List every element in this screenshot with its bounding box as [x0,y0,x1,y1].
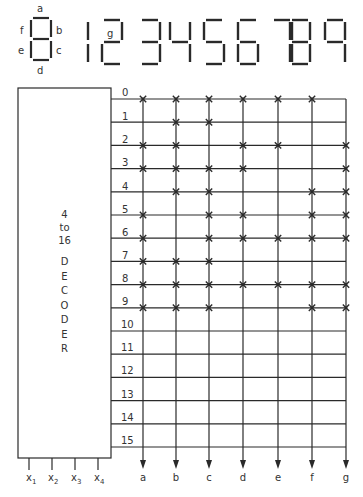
legend-label-e: e [18,46,24,56]
output-line-label-13: 13 [121,390,134,400]
decoder-letter: E [18,328,111,343]
output-col-label-d: d [237,473,249,483]
input-x4: x4 [94,473,104,487]
input-x1: x1 [26,473,36,487]
arrow-down-icon [309,460,315,469]
arrow-down-icon [173,460,179,469]
output-line-label-4: 4 [122,182,128,192]
legend-label-a: a [37,4,43,14]
arrow-down-icon [275,460,281,469]
digit-3 [142,20,160,64]
output-col-label-e: e [272,473,284,483]
decoder-letter: E [18,270,111,285]
input-sub: 2 [54,478,58,486]
digit-2 [102,20,122,64]
diode-matrix-grid [111,99,346,462]
legend-label-g: g [107,29,113,39]
decoder-letter: R [18,342,111,357]
output-line-label-8: 8 [122,274,128,284]
decoder-name: D E C O D E R [18,255,111,357]
digit-5 [204,20,224,64]
output-line-label-10: 10 [121,320,134,330]
output-line-label-2: 2 [122,135,128,145]
input-x2: x2 [48,473,58,487]
decoder-letter: C [18,284,111,299]
arrow-down-icon [140,460,146,469]
output-col-label-b: b [170,473,182,483]
output-line-label-9: 9 [122,297,128,307]
seven-segment-legend [31,18,51,60]
decoder-letter: D [18,255,111,270]
decoder-letter: D [18,313,111,328]
matrix-connections [140,96,349,311]
digit-4 [170,22,190,62]
decoder-title: 4 to 16 [18,208,111,247]
output-line-label-3: 3 [122,158,128,168]
decoder-title-line-2: to [18,221,111,234]
legend-label-d: d [37,66,43,76]
legend-label-f: f [20,26,24,36]
legend-label-b: b [56,26,62,36]
input-sub: 1 [32,478,36,486]
output-col-label-g: g [340,473,352,483]
arrow-down-icon [206,460,212,469]
legend-label-c: c [56,46,62,56]
output-line-label-12: 12 [121,366,134,376]
output-col-label-c: c [203,473,215,483]
input-sub: 3 [77,478,81,486]
output-line-label-11: 11 [121,343,134,353]
digit-6 [238,20,258,64]
input-sub: 4 [100,478,104,486]
arrow-down-icon [343,460,349,469]
output-col-label-f: f [306,473,318,483]
digit-display-row [88,20,345,64]
digit-9 [325,20,345,62]
output-line-label-1: 1 [122,112,128,122]
rom-decoder-diagram [0,0,363,497]
output-line-label-7: 7 [122,251,128,261]
output-line-label-14: 14 [121,413,134,423]
output-arrows [140,460,349,469]
decoder-title-line-3: 16 [18,234,111,247]
output-line-label-6: 6 [122,228,128,238]
input-x3: x3 [71,473,81,487]
output-line-label-0: 0 [122,88,128,98]
output-line-label-5: 5 [122,205,128,215]
decoder-letter: O [18,299,111,314]
output-line-label-15: 15 [121,436,134,446]
arrow-down-icon [240,460,246,469]
output-col-label-a: a [137,473,149,483]
decoder-title-line-1: 4 [18,208,111,221]
